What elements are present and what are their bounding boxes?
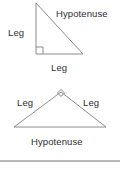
- right-triangle-apex-shape: [14, 90, 106, 128]
- right-angle-square-icon: [36, 47, 43, 54]
- label-bottom-hypotenuse: Hypotenuse: [31, 136, 83, 147]
- right-angle-diamond-icon: [57, 90, 64, 97]
- label-bottom-leg-left: Leg: [17, 97, 33, 108]
- label-top-leg-horizontal: Leg: [51, 62, 67, 73]
- label-top-hypotenuse: Hypotenuse: [56, 8, 108, 19]
- label-top-leg-vertical: Leg: [8, 27, 24, 38]
- label-bottom-leg-right: Leg: [83, 97, 99, 108]
- section-divider: [0, 160, 120, 162]
